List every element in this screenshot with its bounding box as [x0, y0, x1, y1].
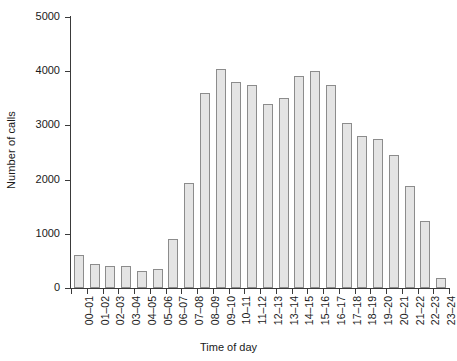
bar [200, 93, 210, 288]
x-axis-tick-label: 12–13 [273, 296, 284, 340]
x-axis-tick-label: 01–02 [100, 296, 111, 340]
bar [168, 239, 178, 288]
x-axis-tick [197, 289, 198, 294]
x-axis-tick-label: 13–14 [289, 296, 300, 340]
x-axis-tick-label: 22–23 [430, 296, 441, 340]
x-axis-tick-label: 18–19 [367, 296, 378, 340]
x-axis-tick-label: 15–16 [320, 296, 331, 340]
x-axis-tick [418, 289, 419, 294]
bar [389, 155, 399, 288]
x-axis-tick [292, 289, 293, 294]
x-axis-title: Time of day [0, 341, 457, 353]
x-axis-tick-label: 02–03 [115, 296, 126, 340]
x-axis-tick [181, 289, 182, 294]
bar [279, 98, 289, 288]
bar [121, 266, 131, 288]
bar [105, 266, 115, 288]
bar [216, 69, 226, 289]
x-axis-tick [118, 289, 119, 294]
x-axis-tick-label: 04–05 [147, 296, 158, 340]
bar [231, 82, 241, 288]
x-axis-tick-label: 10–11 [241, 296, 252, 340]
x-axis-tick-label: 17–18 [352, 296, 363, 340]
x-axis-title-label: Time of day [200, 341, 257, 353]
bar [137, 271, 147, 288]
x-axis-tick-label: 11–12 [257, 296, 268, 340]
y-axis-tick-label: 3000 [0, 119, 60, 130]
bar [184, 183, 194, 288]
x-axis-tick-label: 09–10 [226, 296, 237, 340]
x-axis-tick-label: 03–04 [131, 296, 142, 340]
bar [357, 136, 367, 288]
x-axis-tick [370, 289, 371, 294]
x-axis-tick [260, 289, 261, 294]
y-axis-tick-label: 0 [0, 282, 60, 293]
x-axis-tick-label: 07–08 [194, 296, 205, 340]
x-axis-tick [213, 289, 214, 294]
bar [420, 221, 430, 288]
x-axis-tick-label: 21–22 [415, 296, 426, 340]
x-axis-tick [307, 289, 308, 294]
y-axis-title: Number of calls [0, 0, 22, 300]
x-axis-tick [71, 289, 72, 294]
y-axis-tick-label: 2000 [0, 174, 60, 185]
bar [74, 255, 84, 288]
x-axis-tick [323, 289, 324, 294]
bar [294, 76, 304, 288]
bar [153, 269, 163, 289]
x-axis-tick [276, 289, 277, 294]
bar [342, 123, 352, 288]
x-axis-tick [87, 289, 88, 294]
x-axis-tick-label: 06–07 [178, 296, 189, 340]
bar [247, 85, 257, 288]
x-axis-tick [150, 289, 151, 294]
x-axis-tick [402, 289, 403, 294]
x-axis-tick-label: 19–20 [383, 296, 394, 340]
x-axis-tick [103, 289, 104, 294]
x-axis-tick-label: 14–15 [304, 296, 315, 340]
x-axis-tick [134, 289, 135, 294]
x-axis-tick [339, 289, 340, 294]
bar [310, 71, 320, 288]
x-axis-tick-label: 05–06 [163, 296, 174, 340]
plot-area [71, 17, 449, 288]
y-axis-tick-label: 5000 [0, 11, 60, 22]
x-axis-tick [229, 289, 230, 294]
x-axis-tick [244, 289, 245, 294]
x-axis-tick [433, 289, 434, 294]
bar [90, 264, 100, 288]
x-axis-tick [166, 289, 167, 294]
x-axis-tick-label: 16–17 [336, 296, 347, 340]
x-axis-tick-label: 08–09 [210, 296, 221, 340]
y-axis-tick-label: 4000 [0, 65, 60, 76]
y-axis-tick-label: 1000 [0, 228, 60, 239]
x-axis-tick-label: 23–24 [446, 296, 457, 340]
x-axis-tick-label: 20–21 [399, 296, 410, 340]
bar [436, 278, 446, 288]
x-axis-tick [386, 289, 387, 294]
bar [373, 139, 383, 288]
x-axis-tick [449, 289, 450, 294]
bar [405, 186, 415, 288]
bar-chart-figure: Number of calls 010002000300040005000 00… [0, 0, 457, 361]
x-axis-tick [355, 289, 356, 294]
bar [263, 104, 273, 288]
bar [326, 85, 336, 288]
x-axis-tick-label: 00–01 [84, 296, 95, 340]
